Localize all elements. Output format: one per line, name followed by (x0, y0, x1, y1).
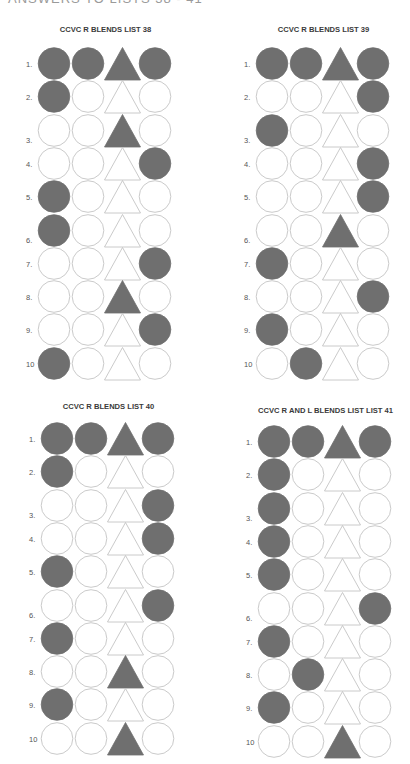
empty-triangle-icon (324, 492, 361, 525)
empty-triangle-icon (107, 622, 144, 655)
answer-row: 6. (256, 214, 410, 247)
answer-row: 4. (258, 525, 410, 558)
empty-circle-icon (38, 147, 70, 180)
filled-circle-icon (41, 555, 73, 588)
row-number: 10 (29, 735, 37, 744)
filled-circle-icon (139, 247, 171, 280)
empty-circle-icon (359, 625, 391, 658)
answer-row: 3. (258, 492, 410, 525)
empty-circle-icon (359, 525, 391, 558)
row-number: 9. (29, 701, 35, 710)
empty-circle-icon (41, 655, 73, 688)
row-number: 8. (26, 293, 32, 302)
answer-row: 9. (38, 313, 238, 346)
empty-triangle-icon (107, 589, 144, 622)
empty-triangle-icon (322, 80, 359, 113)
empty-triangle-icon (107, 522, 144, 555)
row-number: 6. (26, 236, 32, 245)
row-number: 7. (246, 638, 252, 647)
empty-circle-icon (41, 589, 73, 622)
empty-circle-icon (256, 180, 288, 213)
row-number: 5. (244, 193, 250, 202)
empty-circle-icon (290, 214, 322, 247)
empty-circle-icon (359, 725, 391, 758)
empty-circle-icon (258, 658, 290, 691)
row-number: 3. (26, 136, 32, 145)
filled-circle-icon (290, 347, 322, 380)
answer-row: 1. (38, 47, 238, 80)
filled-circle-icon (41, 422, 73, 455)
answer-row: 9. (41, 688, 241, 721)
empty-circle-icon (357, 347, 389, 380)
empty-circle-icon (256, 280, 288, 313)
empty-circle-icon (72, 280, 104, 313)
empty-triangle-icon (324, 592, 361, 625)
empty-circle-icon (142, 722, 174, 755)
answer-row: 1. (258, 425, 410, 458)
empty-circle-icon (75, 555, 107, 588)
filled-circle-icon (142, 522, 174, 555)
answer-row: 6. (38, 214, 238, 247)
filled-circle-icon (256, 247, 288, 280)
empty-triangle-icon (104, 180, 141, 213)
filled-circle-icon (38, 180, 70, 213)
empty-circle-icon (75, 455, 107, 488)
empty-circle-icon (290, 147, 322, 180)
empty-triangle-icon (104, 80, 141, 113)
filled-circle-icon (142, 422, 174, 455)
filled-circle-icon (72, 47, 104, 80)
answer-row: 7. (38, 247, 238, 280)
empty-triangle-icon (322, 147, 359, 180)
empty-circle-icon (258, 592, 290, 625)
row-number: 9. (246, 704, 252, 713)
empty-circle-icon (359, 691, 391, 724)
filled-circle-icon (357, 280, 389, 313)
empty-triangle-icon (104, 347, 141, 380)
empty-circle-icon (292, 691, 324, 724)
empty-circle-icon (142, 688, 174, 721)
filled-circle-icon (258, 525, 290, 558)
filled-circle-icon (292, 658, 324, 691)
empty-triangle-icon (324, 691, 361, 724)
answer-row: 2. (256, 80, 410, 113)
filled-circle-icon (142, 489, 174, 522)
empty-circle-icon (75, 722, 107, 755)
filled-circle-icon (139, 147, 171, 180)
row-number: 4. (244, 160, 250, 169)
row-number: 1. (29, 435, 35, 444)
empty-circle-icon (75, 489, 107, 522)
filled-circle-icon (292, 425, 324, 458)
answer-row: 2. (258, 458, 410, 491)
empty-circle-icon (359, 492, 391, 525)
panel-title: CCVC R AND L BLENDS LIST LIST 41 (253, 406, 398, 415)
filled-circle-icon (41, 688, 73, 721)
row-number: 4. (26, 160, 32, 169)
row-number: 2. (26, 93, 32, 102)
empty-triangle-icon (322, 313, 359, 346)
filled-circle-icon (359, 592, 391, 625)
answer-row: 6. (41, 589, 241, 622)
empty-triangle-icon (104, 147, 141, 180)
empty-circle-icon (38, 313, 70, 346)
empty-circle-icon (72, 247, 104, 280)
empty-circle-icon (41, 722, 73, 755)
filled-circle-icon (139, 47, 171, 80)
empty-circle-icon (41, 489, 73, 522)
filled-circle-icon (38, 47, 70, 80)
empty-circle-icon (139, 180, 171, 213)
answer-row: 8. (258, 658, 410, 691)
empty-circle-icon (142, 655, 174, 688)
answer-row: 10 (41, 722, 241, 755)
row-number: 1. (246, 438, 252, 447)
empty-circle-icon (38, 114, 70, 147)
empty-circle-icon (292, 625, 324, 658)
row-number: 8. (29, 668, 35, 677)
empty-circle-icon (292, 525, 324, 558)
empty-circle-icon (256, 214, 288, 247)
empty-circle-icon (359, 658, 391, 691)
empty-triangle-icon (322, 114, 359, 147)
row-number: 9. (26, 326, 32, 335)
empty-triangle-icon (324, 625, 361, 658)
answer-row: 5. (41, 555, 241, 588)
filled-triangle-icon (107, 422, 144, 455)
